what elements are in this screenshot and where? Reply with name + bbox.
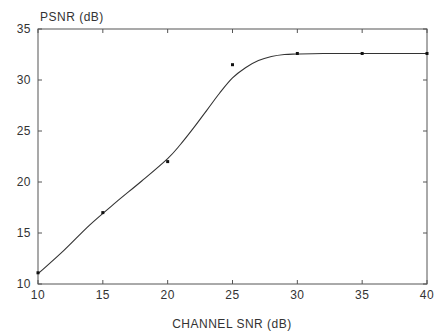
x-tick-label: 30 (290, 288, 304, 302)
tick-marks: 10152025303540101520253035 (17, 22, 435, 302)
data-point-marker (101, 211, 104, 214)
data-point-marker (37, 271, 40, 274)
psnr-vs-snr-chart: 10152025303540101520253035 PSNR (dB) CHA… (0, 0, 446, 332)
x-tick-label: 25 (225, 288, 239, 302)
y-tick-label: 35 (17, 22, 31, 36)
y-tick-label: 10 (17, 277, 31, 291)
x-tick-label: 20 (160, 288, 174, 302)
x-axis-label: CHANNEL SNR (dB) (172, 317, 292, 331)
data-point-marker (231, 63, 234, 66)
curve-path (38, 53, 427, 273)
fitted-curve (38, 53, 427, 273)
y-axis-label: PSNR (dB) (40, 10, 104, 24)
x-tick-label: 40 (420, 288, 434, 302)
data-point-marker (426, 52, 429, 55)
data-point-marker (166, 160, 169, 163)
x-tick-label: 35 (355, 288, 369, 302)
data-point-marker (296, 52, 299, 55)
x-tick-label: 10 (31, 288, 45, 302)
y-tick-label: 25 (17, 124, 31, 138)
data-point-marker (361, 52, 364, 55)
y-tick-label: 20 (17, 175, 31, 189)
y-tick-label: 15 (17, 226, 31, 240)
plot-frame (38, 29, 427, 284)
x-tick-label: 15 (96, 288, 110, 302)
data-points (37, 52, 429, 274)
y-tick-label: 30 (17, 73, 31, 87)
axes (38, 29, 427, 284)
